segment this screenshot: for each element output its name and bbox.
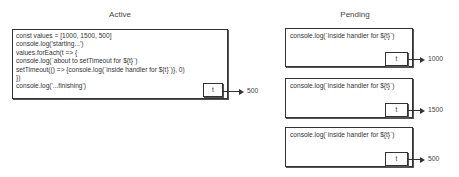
pending-delay-value: 1000: [428, 55, 443, 62]
code-line: console.log('starting...'): [16, 40, 224, 48]
pending-code: console.log(`inside handler for ${t}`): [290, 131, 394, 138]
code-line: values.forEach(t => {: [16, 49, 224, 57]
code-line: console.log(`about to setTimeout for ${t…: [16, 57, 224, 65]
pending-arrow: [408, 59, 421, 60]
code-line: setTimeout(() => {console.log(`inside ha…: [16, 66, 224, 74]
pending-title: Pending: [315, 10, 395, 19]
pending-param-box: t: [385, 152, 408, 166]
active-param-box: t: [203, 83, 223, 97]
active-arrow: [223, 91, 240, 92]
active-delay-value: 500: [247, 87, 258, 94]
active-title: Active: [80, 10, 160, 19]
pending-code: console.log(`inside handler for ${t}`): [290, 32, 394, 39]
pending-arrow: [408, 110, 421, 111]
pending-delay-value: 500: [428, 155, 439, 162]
pending-code: console.log(`inside handler for ${t}`): [290, 82, 394, 89]
code-line: }): [16, 74, 224, 82]
pending-param-box: t: [385, 103, 408, 117]
active-code-box: const values = [1000, 1500, 500] console…: [12, 29, 228, 99]
code-line: const values = [1000, 1500, 500]: [16, 32, 224, 40]
pending-delay-value: 1500: [428, 106, 443, 113]
code-line: console.log('...finishing'): [16, 82, 224, 90]
pending-param-box: t: [385, 52, 408, 66]
pending-arrow: [408, 159, 421, 160]
